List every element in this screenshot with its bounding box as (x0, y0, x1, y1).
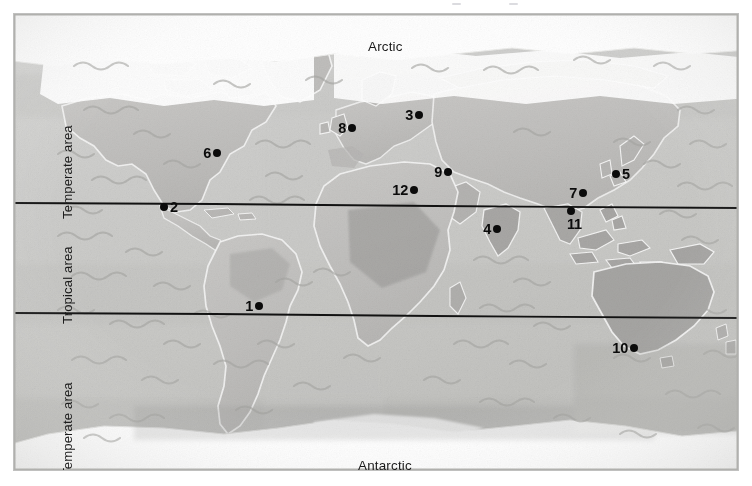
site-dot-icon (493, 225, 501, 233)
cropped-caption-remnant (452, 1, 652, 8)
site-dot-icon (567, 207, 575, 215)
site-marker-label: 8 (338, 121, 346, 136)
site-dot-icon (410, 186, 418, 194)
site-marker-label: 3 (405, 108, 413, 123)
site-marker-label: 5 (622, 167, 630, 182)
site-marker-label: 10 (612, 341, 628, 356)
site-marker-label: 1 (245, 299, 253, 314)
map-plate: Temperate area Tropical area Temperate a… (14, 14, 738, 470)
caption-ghost-mark (452, 3, 461, 5)
site-marker-label: 2 (170, 200, 178, 215)
site-dot-icon (579, 189, 587, 197)
site-marker-label: 4 (483, 222, 491, 237)
map-artwork (14, 14, 738, 470)
caption-ghost-mark (509, 3, 518, 5)
site-marker-label: 6 (203, 146, 211, 161)
site-dot-icon (348, 124, 356, 132)
site-dot-icon (415, 111, 423, 119)
site-dot-icon (444, 168, 452, 176)
world-climate-zone-map: Temperate area Tropical area Temperate a… (0, 0, 752, 486)
site-marker-label: 11 (567, 217, 582, 232)
site-dot-icon (213, 149, 221, 157)
site-dot-icon (160, 203, 168, 211)
site-dot-icon (255, 302, 263, 310)
site-dot-icon (630, 344, 638, 352)
site-marker-label: 12 (392, 183, 408, 198)
site-marker-label: 7 (569, 186, 577, 201)
site-marker-label: 9 (434, 165, 442, 180)
site-dot-icon (612, 170, 620, 178)
